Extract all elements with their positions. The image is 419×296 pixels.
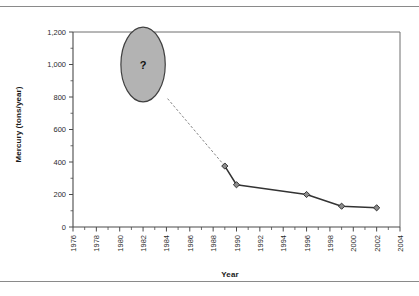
- y-tick-label: 200: [53, 190, 66, 199]
- x-tick-label: 1998: [326, 235, 335, 252]
- figure-container: 02004006008001,0001,200 1976197819801982…: [0, 0, 419, 296]
- y-axis: 02004006008001,0001,200: [47, 28, 73, 232]
- x-tick-label: 1994: [279, 235, 288, 252]
- x-tick-label: 1982: [139, 235, 148, 252]
- y-axis-title: Mercury (tons/year): [14, 55, 23, 195]
- y-tick-label: 800: [53, 93, 66, 102]
- x-tick-label: 2004: [396, 235, 405, 252]
- x-tick-label: 1996: [303, 235, 312, 252]
- x-tick-label: 1992: [256, 235, 265, 252]
- data-point-markers: [222, 163, 380, 211]
- top-divider-rule: [0, 6, 419, 7]
- bottom-divider-rule: [0, 281, 419, 282]
- y-tick-label: 600: [53, 125, 66, 134]
- x-tick-label: 1978: [92, 235, 101, 252]
- x-tick-label: 1980: [116, 235, 125, 252]
- x-tick-label: 1988: [209, 235, 218, 252]
- x-tick-label: 1976: [69, 235, 78, 252]
- data-series-line: [225, 166, 377, 208]
- y-tick-label: 1,000: [47, 60, 66, 69]
- x-tick-label: 1984: [162, 235, 171, 252]
- x-axis: 1976197819801982198419861988199019921994…: [69, 227, 405, 252]
- chart-plot-wrapper: 02004006008001,0001,200 1976197819801982…: [0, 8, 419, 280]
- x-axis-title: Year: [160, 270, 300, 279]
- question-mark-label: ?: [140, 59, 147, 71]
- y-tick-label: 0: [62, 223, 66, 232]
- x-tick-label: 1986: [186, 235, 195, 252]
- mercury-emissions-line-chart: 02004006008001,0001,200 1976197819801982…: [0, 8, 419, 280]
- dashed-connector-line: [168, 99, 225, 166]
- data-point-marker: [374, 205, 380, 211]
- unknown-data-bubble: ?: [121, 27, 165, 102]
- x-tick-label: 2000: [349, 235, 358, 252]
- x-tick-label: 1990: [233, 235, 242, 252]
- x-tick-label: 2002: [373, 235, 382, 252]
- y-tick-label: 400: [53, 158, 66, 167]
- data-point-marker: [339, 203, 345, 209]
- data-point-marker: [303, 191, 309, 197]
- y-tick-label: 1,200: [47, 28, 66, 37]
